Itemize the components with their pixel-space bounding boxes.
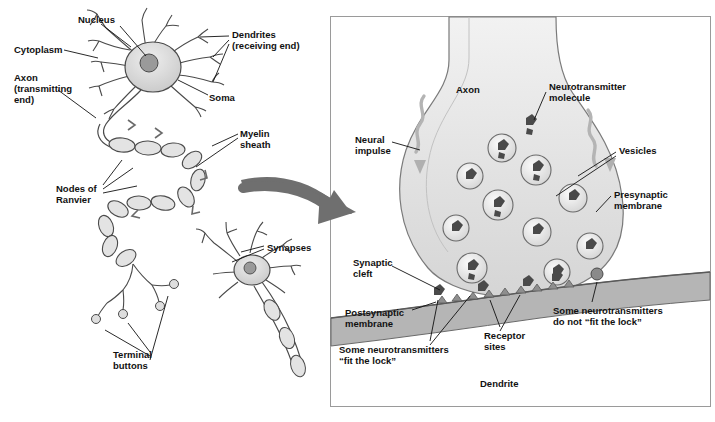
label-myelin-sheath: Myelin sheath (240, 128, 271, 150)
label-do-not-fit-the-lock: Some neurotransmitters do not “fit the l… (553, 305, 663, 327)
terminal-buttons-branch (92, 264, 179, 324)
label-dendrite-right: Dendrite (480, 378, 519, 389)
label-vesicles: Vesicles (619, 145, 657, 156)
label-presynaptic-membrane: Presynaptic membrane (614, 189, 668, 211)
label-synapses: Synapses (267, 242, 311, 253)
label-receptor-sites: Receptor sites (484, 330, 525, 352)
label-neurotransmitter-molecule: Neurotransmitter molecule (549, 81, 626, 103)
label-nodes-of-ranvier: Nodes of Ranvier (56, 183, 97, 205)
label-soma: Soma (209, 92, 235, 103)
label-terminal-buttons: Terminal buttons (113, 349, 152, 371)
label-postsynaptic-membrane: Postsynaptic membrane (345, 307, 404, 329)
label-axon: Axon (transmitting end) (14, 72, 72, 106)
label-axon-right: Axon (456, 84, 480, 95)
figure-root: Nucleus Dendrites (receiving end) Cytopl… (0, 0, 715, 422)
label-fit-the-lock: Some neurotransmitters “fit the lock” (339, 344, 449, 366)
label-neural-impulse: Neural impulse (355, 134, 391, 156)
label-synaptic-cleft: Synaptic cleft (353, 257, 393, 279)
label-nucleus: Nucleus (78, 14, 115, 25)
label-dendrites: Dendrites (receiving end) (232, 29, 300, 51)
label-cytoplasm: Cytoplasm (14, 44, 63, 55)
axon-with-myelin (96, 90, 208, 270)
